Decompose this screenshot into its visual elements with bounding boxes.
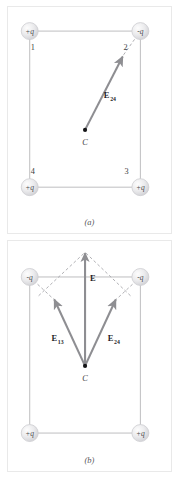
panel-b-diagram: C E 13 E 24 E -q -q +q [8, 241, 171, 471]
panel-b-caption: (b) [8, 455, 171, 465]
charge-3-a: +q [132, 179, 149, 196]
panel-a: C E 24 +q 1 -q 2 +q 3 [7, 6, 172, 234]
charge-bottom-right-sign-b: +q [136, 429, 145, 438]
vector-sublabel-e24-b: 24 [114, 339, 120, 345]
center-point-a [83, 128, 87, 132]
vector-sublabel-e24-a: 24 [110, 96, 116, 102]
vector-label-e24-b: E [108, 333, 114, 343]
charge-bottom-left-sign-b: +q [25, 429, 34, 438]
vector-sublabel-e13-b: 13 [58, 339, 64, 345]
corner-number-1-a: 1 [31, 43, 35, 52]
vector-label-e24-a: E [104, 90, 110, 100]
center-point-label-a: C [82, 138, 88, 147]
panel-b: C E 13 E 24 E -q -q +q [7, 240, 172, 472]
charge-2-a: -q [132, 23, 149, 40]
corner-number-2-a: 2 [124, 43, 128, 52]
charge-1-a: +q [21, 23, 38, 40]
charge-top-left-sign-b: -q [27, 273, 33, 282]
charge-4-a: +q [21, 179, 38, 196]
corner-number-3-a: 3 [125, 167, 129, 176]
charge-top-right-b: -q [132, 268, 149, 285]
vector-label-e-b: E [90, 273, 96, 283]
center-point-b [83, 364, 87, 368]
panel-a-diagram: C E 24 +q 1 -q 2 +q 3 [8, 7, 171, 233]
charge-top-right-sign-b: -q [137, 273, 143, 282]
vector-e13-b [54, 300, 85, 366]
vector-label-e13-b: E [51, 333, 57, 343]
figure-root: C E 24 +q 1 -q 2 +q 3 [0, 0, 179, 479]
charge-bottom-right-b: +q [132, 425, 149, 442]
panel-a-caption: (a) [8, 217, 171, 227]
charge-top-left-b: -q [21, 268, 38, 285]
center-point-label-b: C [82, 374, 88, 383]
corner-number-4-a: 4 [31, 167, 36, 176]
charge-1-sign-a: +q [25, 27, 34, 36]
charge-bottom-left-b: +q [21, 425, 38, 442]
charge-2-sign-a: -q [137, 27, 143, 36]
charge-4-sign-a: +q [25, 183, 34, 192]
charge-3-sign-a: +q [136, 183, 145, 192]
